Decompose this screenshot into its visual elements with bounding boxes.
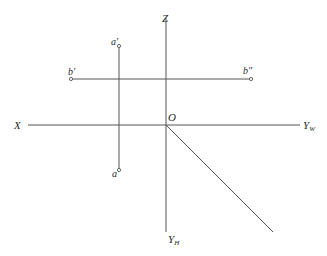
yh-axis-label: YH — [168, 233, 180, 247]
projection-diagram: Z X O YW YH a′ a b′ b″ — [0, 0, 327, 256]
diagonal-line — [166, 125, 273, 232]
b-double-prime-label: b″ — [243, 65, 253, 76]
point-b-double-prime — [249, 77, 252, 80]
yw-axis-label-sub: W — [309, 125, 316, 133]
point-a — [117, 168, 120, 171]
yh-axis-label-sub: H — [173, 239, 180, 247]
b-prime-label: b′ — [68, 66, 76, 77]
a-label: a — [112, 168, 117, 179]
x-axis-label: X — [13, 119, 22, 131]
origin-label: O — [168, 111, 176, 123]
a-prime-label: a′ — [111, 36, 119, 47]
z-axis-label: Z — [162, 12, 169, 24]
point-b-prime — [69, 77, 72, 80]
yw-axis-label: YW — [303, 119, 316, 133]
